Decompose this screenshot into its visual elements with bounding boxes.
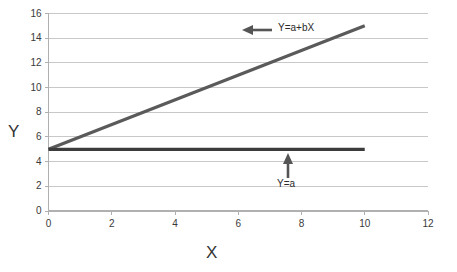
y-tick-label-16: 16	[20, 8, 42, 19]
up-arrow-icon	[283, 153, 293, 178]
x-tick-label-2: 2	[102, 218, 122, 229]
x-axis-title: X	[206, 243, 217, 263]
x-tick-label-10: 10	[355, 218, 375, 229]
x-tick-label-8: 8	[292, 218, 312, 229]
x-tick-label-12: 12	[418, 218, 438, 229]
x-tick-label-6: 6	[228, 218, 248, 229]
chart-plot-area	[0, 0, 457, 272]
left-arrow-head	[242, 25, 253, 35]
left-arrow-icon	[242, 25, 272, 35]
y-tick-label-10: 10	[20, 82, 42, 93]
y-tick-label-8: 8	[20, 106, 42, 117]
x-tick-label-4: 4	[165, 218, 185, 229]
annotation-intercept-label: Y=a	[277, 178, 295, 189]
annotation-arrows-group	[242, 25, 293, 178]
y-tick-label-4: 4	[20, 156, 42, 167]
y-tick-label-6: 6	[20, 131, 42, 142]
up-arrow-head	[283, 153, 293, 164]
x-tick-label-0: 0	[39, 218, 59, 229]
y-tick-label-14: 14	[20, 32, 42, 43]
y-axis-title: Y	[8, 122, 19, 142]
gridlines-group	[49, 14, 429, 187]
y-tick-label-0: 0	[20, 205, 42, 216]
y-tick-label-2: 2	[20, 180, 42, 191]
annotation-slope-label: Y=a+bX	[278, 22, 314, 33]
y-tick-label-12: 12	[20, 57, 42, 68]
chart-figure: 0246810121416 024681012 Y X Y=a+bX Y=a	[0, 0, 457, 272]
